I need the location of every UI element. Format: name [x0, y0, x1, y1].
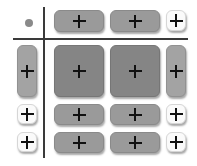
column-header-1-add-button[interactable]	[54, 10, 104, 32]
plus-icon	[129, 136, 142, 149]
plus-icon	[73, 15, 86, 28]
plus-icon	[73, 108, 86, 121]
plus-icon	[73, 136, 86, 149]
row-header-1-add-button[interactable]	[17, 45, 37, 97]
row-header-3-add-button[interactable]	[17, 132, 37, 152]
column-header-2-add-button[interactable]	[110, 10, 160, 32]
cell-r1-c3-add-button[interactable]	[166, 45, 186, 97]
vertical-axis-line	[43, 7, 45, 158]
cell-r3-c1-add-button[interactable]	[54, 132, 104, 153]
plus-icon	[129, 65, 142, 78]
plus-icon	[170, 14, 183, 27]
cell-r1-c1-add-button[interactable]	[54, 45, 104, 97]
plus-icon	[170, 108, 183, 121]
row-header-2-add-button[interactable]	[17, 104, 37, 124]
cell-r2-c2-add-button[interactable]	[110, 104, 160, 125]
plus-icon	[129, 108, 142, 121]
plus-icon	[129, 15, 142, 28]
plus-icon	[21, 65, 34, 78]
cell-r3-c3-add-button[interactable]	[166, 132, 186, 152]
cell-r3-c2-add-button[interactable]	[110, 132, 160, 153]
cell-r2-c1-add-button[interactable]	[54, 104, 104, 125]
cell-r2-c3-add-button[interactable]	[166, 104, 186, 124]
plus-icon	[21, 108, 34, 121]
plus-icon	[170, 65, 183, 78]
plus-icon	[21, 136, 34, 149]
horizontal-axis-line	[13, 38, 188, 40]
plus-icon	[170, 136, 183, 149]
column-header-3-add-button[interactable]	[166, 10, 186, 31]
cell-r1-c2-add-button[interactable]	[110, 45, 160, 97]
corner-dot-icon	[25, 19, 33, 27]
plus-icon	[73, 65, 86, 78]
